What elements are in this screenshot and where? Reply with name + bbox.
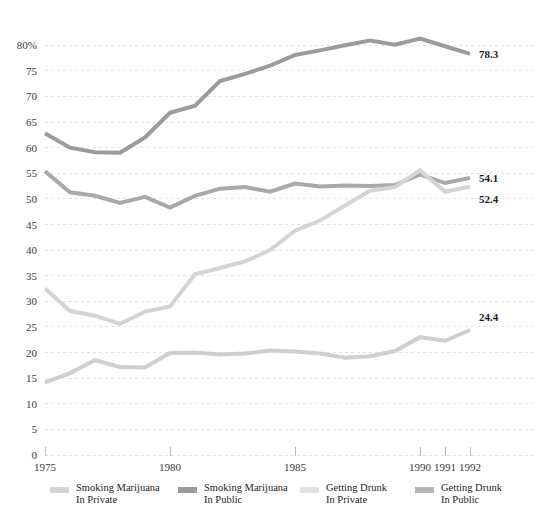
series-line (45, 39, 470, 153)
legend-item-label: Smoking MarijuanaIn Public (204, 482, 288, 505)
y-axis-tick-label: 40 (26, 244, 38, 256)
legend-label-line1: Smoking Marijuana (204, 482, 288, 494)
legend-swatch-drunk-private (300, 487, 319, 493)
y-axis-tick-label: 25 (26, 321, 38, 333)
x-axis-tick-label: 1975 (34, 461, 57, 473)
series-end-value-label: 78.3 (479, 48, 499, 60)
legend-label-line2: In Private (76, 494, 160, 506)
y-axis-tick-label: 45 (26, 219, 38, 231)
y-axis-tick-label: 80% (17, 39, 37, 51)
chart-container: 05101520253035404550556065707580% 78.354… (0, 0, 536, 516)
y-axis-tick-label: 5 (32, 423, 38, 435)
legend-label-line2: In Private (326, 494, 387, 506)
legend-item-label: Smoking MarijuanaIn Private (76, 482, 160, 505)
legend-label-line1: Getting Drunk (441, 482, 502, 494)
legend-label-line1: Getting Drunk (326, 482, 387, 494)
y-axis-labels: 05101520253035404550556065707580% (17, 39, 38, 461)
y-axis-tick-label: 60 (26, 142, 38, 154)
legend-swatch-smoking-public (178, 487, 197, 493)
x-axis-tick-label: 1980 (159, 461, 182, 473)
legend-label-line2: In Public (441, 494, 502, 506)
series-end-value-label: 24.4 (479, 311, 499, 323)
data-series (45, 39, 470, 383)
y-axis-tick-label: 50 (26, 193, 38, 205)
x-axis-tick-label: 1990 (409, 461, 432, 473)
legend-label-line2: In Public (204, 494, 288, 506)
y-axis-tick-label: 20 (26, 347, 38, 359)
y-axis-tick-label: 35 (26, 270, 38, 282)
series-line (45, 171, 470, 207)
y-axis-tick-label: 75 (26, 65, 38, 77)
line-chart-plot: 05101520253035404550556065707580% 78.354… (0, 0, 536, 480)
legend-item[interactable]: Getting DrunkIn Public (415, 482, 502, 505)
gridlines (45, 45, 536, 455)
y-axis-tick-label: 70 (26, 90, 38, 102)
series-line (45, 170, 470, 324)
y-axis-tick-label: 55 (26, 167, 38, 179)
y-axis-tick-label: 30 (26, 295, 38, 307)
y-axis-tick-label: 15 (26, 372, 38, 384)
x-axis-tick-label: 1985 (284, 461, 307, 473)
y-axis-tick-label: 10 (26, 398, 38, 410)
legend-item-label: Getting DrunkIn Private (326, 482, 387, 505)
series-end-labels: 78.354.152.424.4 (479, 48, 499, 323)
legend-item-label: Getting DrunkIn Public (441, 482, 502, 505)
legend-swatch-drunk-public (415, 487, 434, 493)
legend-item[interactable]: Smoking MarijuanaIn Private (50, 482, 160, 505)
x-axis-tick-label: 1992 (459, 461, 481, 473)
y-axis-tick-label: 0 (32, 449, 38, 461)
chart-legend: Smoking MarijuanaIn PrivateSmoking Marij… (0, 482, 536, 514)
legend-item[interactable]: Smoking MarijuanaIn Public (178, 482, 288, 505)
y-axis-tick-label: 65 (26, 116, 38, 128)
legend-item[interactable]: Getting DrunkIn Private (300, 482, 387, 505)
series-end-value-label: 52.4 (479, 193, 499, 205)
legend-label-line1: Smoking Marijuana (76, 482, 160, 494)
series-line (45, 330, 470, 382)
x-axis-tick-label: 1991 (434, 461, 456, 473)
series-end-value-label: 54.1 (479, 172, 498, 184)
x-axis-labels: 197519801985199019911992 (34, 461, 481, 473)
legend-swatch-smoking-private (50, 487, 69, 493)
